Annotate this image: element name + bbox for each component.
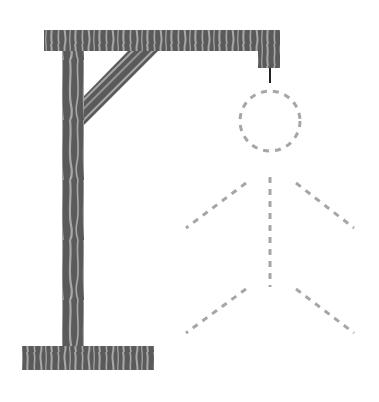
gallows-base [22,346,154,370]
figure-right-leg [296,289,354,333]
figure-left-leg [186,289,246,333]
gallows [22,30,280,370]
figure-head [240,91,300,151]
gallows-diagonal-brace [84,51,158,125]
gallows-vertical-post [62,51,84,347]
gallows-hanging-block [258,51,280,68]
gallows-top-beam [44,30,280,51]
hangman-figure [186,91,354,333]
figure-right-arm [296,183,354,228]
figure-left-arm [186,183,246,228]
hangman-canvas [0,0,379,402]
